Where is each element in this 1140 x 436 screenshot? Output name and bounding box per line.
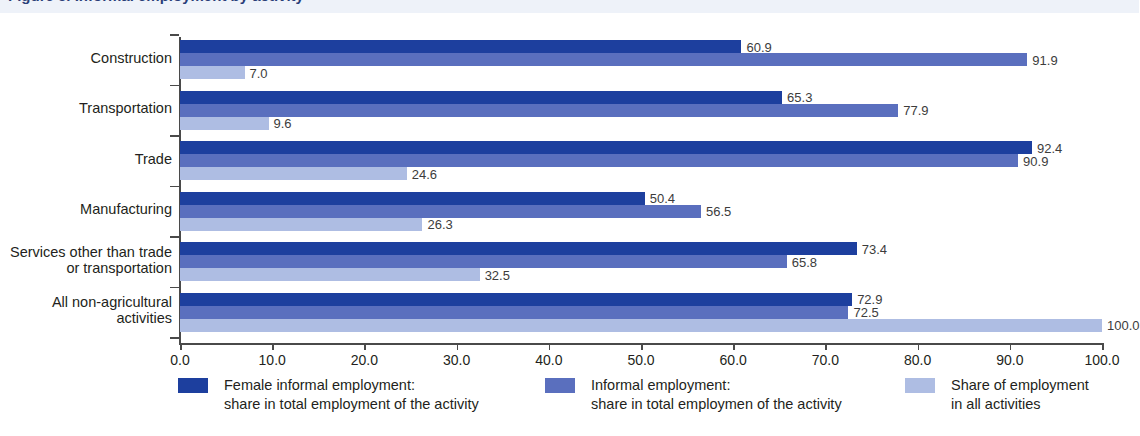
bar-value-label: 91.9 <box>1032 52 1057 67</box>
bar: 92.4 <box>180 141 1032 154</box>
x-axis-tick-label: 70.0 <box>812 352 839 368</box>
legend-label: Share of employment in all activities <box>951 376 1089 414</box>
y-axis-tick <box>170 236 179 238</box>
x-axis-tick <box>918 343 920 350</box>
legend-color-swatch <box>178 378 208 393</box>
x-axis-tick <box>1102 343 1104 350</box>
bar-value-label: 26.3 <box>427 217 452 232</box>
legend-item[interactable]: Informal employment: share in total empl… <box>545 376 842 414</box>
category-label: Manufacturing <box>0 201 172 217</box>
bar: 26.3 <box>180 218 422 231</box>
x-axis-tick <box>641 343 643 350</box>
x-axis-tick-label: 0.0 <box>170 352 189 368</box>
x-axis-tick <box>364 343 366 350</box>
category-label: Transportation <box>0 100 172 116</box>
category-label: Construction <box>0 50 172 66</box>
bar-value-label: 65.3 <box>787 90 812 105</box>
x-axis-tick-label: 80.0 <box>904 352 931 368</box>
bar-value-label: 72.5 <box>853 305 878 320</box>
bar: 32.5 <box>180 268 480 281</box>
bar: 65.3 <box>180 91 782 104</box>
x-axis-tick-label: 10.0 <box>259 352 286 368</box>
figure-title: Figure 5. Informal employment by activit… <box>8 0 304 4</box>
legend-item[interactable]: Share of employment in all activities <box>905 376 1089 414</box>
x-axis-tick-label: 60.0 <box>720 352 747 368</box>
bar-value-label: 56.5 <box>706 204 731 219</box>
bar-value-label: 7.0 <box>250 65 268 80</box>
bar-value-label: 77.9 <box>903 103 928 118</box>
bar: 24.6 <box>180 167 407 180</box>
bar: 100.0 <box>180 319 1102 332</box>
category-label: Services other than trade or transportat… <box>0 244 172 276</box>
x-axis-tick <box>733 343 735 350</box>
plot-area: ConstructionTransportationTradeManufactu… <box>0 13 1139 343</box>
x-axis-tick <box>457 343 459 350</box>
bar-value-label: 24.6 <box>412 166 437 181</box>
bar-value-label: 73.4 <box>862 241 887 256</box>
y-axis-tick <box>170 34 179 36</box>
bar: 50.4 <box>180 192 645 205</box>
bar-value-label: 100.0 <box>1107 318 1140 333</box>
x-axis-tick-label: 30.0 <box>443 352 470 368</box>
legend-color-swatch <box>545 378 575 393</box>
x-axis-tick <box>549 343 551 350</box>
y-axis-tick <box>170 287 179 289</box>
x-axis-tick-label: 90.0 <box>996 352 1023 368</box>
bar: 60.9 <box>180 40 741 53</box>
x-axis-tick <box>180 343 182 350</box>
bar-value-label: 50.4 <box>650 191 675 206</box>
chart-legend: Female informal employment: share in tot… <box>0 376 1139 434</box>
bar-value-label: 60.9 <box>746 39 771 54</box>
bar-value-label: 32.5 <box>485 267 510 282</box>
bar: 91.9 <box>180 53 1027 66</box>
x-axis-tick-label: 50.0 <box>627 352 654 368</box>
x-axis-tick <box>825 343 827 350</box>
bar-value-label: 65.8 <box>792 254 817 269</box>
legend-label: Female informal employment: share in tot… <box>224 376 479 414</box>
bar-value-label: 90.9 <box>1023 153 1048 168</box>
bar: 7.0 <box>180 66 245 79</box>
y-axis-tick <box>170 337 179 339</box>
x-axis-tick <box>1010 343 1012 350</box>
bar: 73.4 <box>180 242 857 255</box>
category-label: Trade <box>0 151 172 167</box>
y-axis-tick <box>170 135 179 137</box>
bar: 9.6 <box>180 117 269 130</box>
bar: 65.8 <box>180 255 787 268</box>
x-axis-tick-label: 40.0 <box>535 352 562 368</box>
y-axis-tick <box>170 85 179 87</box>
bar-chart: ConstructionTransportationTradeManufactu… <box>0 13 1139 436</box>
bar: 72.5 <box>180 306 848 319</box>
x-axis-tick-label: 20.0 <box>351 352 378 368</box>
y-axis-tick <box>170 186 179 188</box>
legend-item[interactable]: Female informal employment: share in tot… <box>178 376 479 414</box>
bar: 90.9 <box>180 154 1018 167</box>
category-label: All non-agricultural activities <box>0 294 172 326</box>
bar: 72.9 <box>180 293 852 306</box>
x-axis-tick-label: 100.0 <box>1084 352 1119 368</box>
legend-color-swatch <box>905 378 935 393</box>
legend-label: Informal employment: share in total empl… <box>591 376 842 414</box>
cut-off-title-strip: Figure 5. Informal employment by activit… <box>0 0 1139 13</box>
bar-value-label: 9.6 <box>274 116 292 131</box>
x-axis-tick <box>272 343 274 350</box>
